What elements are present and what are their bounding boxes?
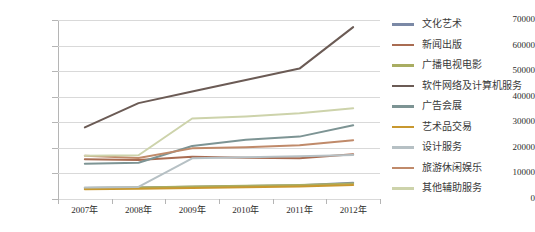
legend-label: 设计服务 bbox=[422, 142, 462, 152]
legend-color-swatch bbox=[392, 167, 414, 170]
legend-item[interactable]: 广告会展 bbox=[392, 96, 535, 117]
legend-color-swatch bbox=[392, 44, 414, 47]
chart-container: 010000200003000040000500006000070000 200… bbox=[0, 0, 535, 232]
legend-label: 旅游休闲娱乐 bbox=[422, 163, 482, 173]
legend-color-swatch bbox=[392, 23, 414, 26]
x-axis-tick-mark bbox=[58, 199, 59, 204]
legend-color-swatch bbox=[392, 126, 414, 129]
legend-label: 文化艺术 bbox=[422, 19, 462, 29]
legend-color-swatch bbox=[392, 187, 414, 190]
x-axis-tick-mark bbox=[112, 199, 113, 204]
legend-label: 其他辅助服务 bbox=[422, 183, 482, 193]
legend-item[interactable]: 软件网络及计算机服务 bbox=[392, 76, 535, 97]
legend-item[interactable]: 文化艺术 bbox=[392, 14, 535, 35]
legend-color-swatch bbox=[392, 64, 414, 67]
x-axis-tick-mark bbox=[326, 199, 327, 204]
legend-color-swatch bbox=[392, 85, 414, 88]
legend-label: 软件网络及计算机服务 bbox=[422, 81, 522, 91]
legend-label: 广播电视电影 bbox=[422, 60, 482, 70]
legend-color-swatch bbox=[392, 105, 414, 108]
legend-item[interactable]: 其他辅助服务 bbox=[392, 178, 535, 199]
legend-item[interactable]: 艺术品交易 bbox=[392, 117, 535, 138]
series-lines bbox=[58, 20, 380, 199]
x-axis-tick-mark bbox=[219, 199, 220, 204]
x-axis-tick-mark bbox=[273, 199, 274, 204]
x-axis-tick-label: 2010年 bbox=[216, 206, 276, 215]
x-axis-tick-label: 2011年 bbox=[270, 206, 330, 215]
legend-item[interactable]: 广播电视电影 bbox=[392, 55, 535, 76]
legend-item[interactable]: 旅游休闲娱乐 bbox=[392, 158, 535, 179]
x-axis-tick-mark bbox=[165, 199, 166, 204]
x-axis-tick-mark bbox=[380, 199, 381, 204]
x-axis-tick-label: 2007年 bbox=[55, 206, 115, 215]
chart-legend: 文化艺术新闻出版广播电视电影软件网络及计算机服务广告会展艺术品交易设计服务旅游休… bbox=[392, 14, 535, 199]
x-axis-tick-label: 2009年 bbox=[162, 206, 222, 215]
legend-color-swatch bbox=[392, 146, 414, 149]
x-axis-tick-label: 2012年 bbox=[323, 206, 383, 215]
legend-item[interactable]: 设计服务 bbox=[392, 137, 535, 158]
legend-item[interactable]: 新闻出版 bbox=[392, 35, 535, 56]
legend-label: 新闻出版 bbox=[422, 40, 462, 50]
legend-label: 广告会展 bbox=[422, 101, 462, 111]
legend-label: 艺术品交易 bbox=[422, 122, 472, 132]
x-axis-tick-label: 2008年 bbox=[109, 206, 169, 215]
